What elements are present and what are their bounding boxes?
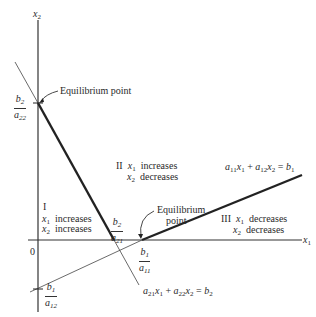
denominator: a11	[139, 263, 150, 276]
numerator: b2	[16, 94, 25, 107]
numerator: b1	[47, 282, 56, 295]
equilibrium-point-label-top: Equilibrium point	[60, 85, 131, 96]
denominator: a12	[45, 298, 57, 311]
fraction-b1-a12: b1 a12	[45, 282, 57, 311]
fraction-b1-a11: b1 a11	[139, 247, 150, 276]
x2-sub: 2	[37, 13, 41, 21]
line2-equation: a21x1 + a22x2 = b2	[143, 285, 213, 300]
denominator: a21	[111, 233, 123, 246]
x1-axis-label: x1	[303, 234, 311, 249]
fraction-b2-a22: b2 a22	[14, 94, 26, 123]
region-I-numeral: I	[43, 201, 46, 212]
equilibrium-point-label-mid-1: Equilibrium	[157, 204, 205, 215]
line2-thin-lower	[114, 240, 139, 285]
equilibrium-point-label-mid-2: point	[166, 215, 187, 226]
denominator: a22	[14, 110, 26, 123]
arrow-equilibrium-mid	[141, 211, 154, 237]
arrow-head-mid	[138, 234, 143, 239]
arrow-equilibrium-top	[41, 91, 58, 101]
diagram-canvas	[0, 0, 316, 317]
region-I-line2: x2 increases	[42, 223, 92, 238]
x2-axis-label: x2	[33, 8, 41, 23]
region-III-line2: x2 decreases	[233, 224, 284, 239]
numerator: b2	[113, 217, 122, 230]
numerator: b1	[140, 247, 149, 260]
fraction-b2-a21: b2 a21	[111, 217, 123, 246]
x1-sub: 1	[307, 239, 311, 247]
line1-equation: a11x1 + a12x2 = b1	[225, 161, 294, 176]
region-II-line2: x2 decreases	[127, 171, 178, 186]
origin-label: 0	[30, 246, 35, 257]
